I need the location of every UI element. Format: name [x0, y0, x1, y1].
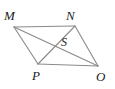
vertex-label-n: N — [66, 9, 75, 22]
vertex-label-m: M — [4, 9, 15, 22]
diagonal-np — [38, 26, 75, 64]
segment-mn — [14, 26, 75, 27]
vertex-label-p: P — [32, 69, 40, 82]
segment-op — [38, 64, 98, 66]
geometry-figure: M N O P S — [0, 0, 115, 89]
segment-no — [75, 26, 98, 66]
vertex-label-o: O — [96, 70, 105, 83]
intersection-label-s: S — [61, 36, 67, 49]
